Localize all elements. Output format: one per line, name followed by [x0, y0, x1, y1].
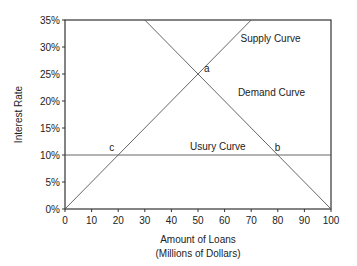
chart: 0%5%10%15%20%25%30%35%010203040506070809… [0, 0, 357, 266]
y-tick-label: 35% [40, 15, 60, 26]
point-label: b [275, 142, 281, 153]
plot-frame [65, 20, 331, 209]
x-axis-label: Amount of Loans [160, 234, 236, 245]
curve-label: Usury Curve [190, 141, 246, 152]
x-tick-label: 90 [299, 215, 311, 226]
y-tick-label: 15% [40, 123, 60, 134]
x-tick-label: 70 [246, 215, 258, 226]
y-tick-label: 10% [40, 150, 60, 161]
x-tick-label: 100 [323, 215, 340, 226]
point-label: c [109, 142, 114, 153]
y-tick-label: 20% [40, 96, 60, 107]
x-tick-label: 40 [166, 215, 178, 226]
curve-label: Demand Curve [238, 87, 306, 98]
y-tick-label: 0% [46, 204, 61, 215]
supply-curve-line [65, 20, 251, 209]
x-tick-label: 30 [139, 215, 151, 226]
x-tick-label: 80 [272, 215, 284, 226]
point-label: a [204, 63, 210, 74]
curve-label: Supply Curve [241, 33, 301, 44]
y-axis-label: Interest Rate [13, 85, 24, 143]
x-tick-label: 10 [86, 215, 98, 226]
x-tick-label: 50 [192, 215, 204, 226]
demand-curve-line [145, 20, 331, 209]
x-tick-label: 0 [62, 215, 68, 226]
x-axis-label-units: (Millions of Dollars) [155, 248, 240, 259]
x-tick-label: 60 [219, 215, 231, 226]
y-tick-label: 30% [40, 42, 60, 53]
y-tick-label: 5% [46, 177, 61, 188]
x-tick-label: 20 [113, 215, 125, 226]
y-tick-label: 25% [40, 69, 60, 80]
